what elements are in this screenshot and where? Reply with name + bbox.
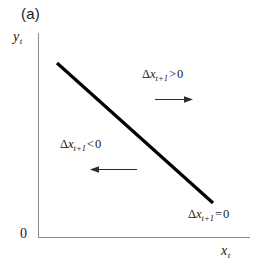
- delta-symbol-above: Δ: [142, 67, 150, 81]
- subscript-below: t+1: [74, 143, 86, 153]
- delta-symbol-online: Δ: [188, 207, 196, 221]
- y-axis-variable: y: [13, 29, 19, 44]
- isocline-line: [0, 0, 265, 268]
- annotation-below-line: Δxt+1<0: [60, 138, 101, 151]
- subscript-above: t+1: [156, 73, 168, 83]
- x-axis-subscript: t: [228, 250, 231, 260]
- isocline-segment: [57, 63, 213, 203]
- arrow-left-shaft: [96, 169, 137, 170]
- arrow-right-icon: [155, 95, 193, 104]
- value-below: 0: [95, 137, 101, 151]
- x-axis-label: xt: [221, 243, 230, 259]
- x-axis-variable: x: [221, 243, 227, 258]
- x-axis-line: [38, 237, 250, 238]
- variable-above: x: [150, 67, 156, 81]
- operator-online: =: [214, 207, 223, 221]
- arrow-left-icon: [90, 165, 137, 174]
- phase-diagram-figure: (a) yt xt 0 Δxt+1>0 Δxt+1<0 Δxt+1=0: [0, 0, 265, 268]
- operator-below: <: [86, 137, 95, 151]
- y-axis-line: [38, 33, 39, 238]
- y-axis-label: yt: [13, 29, 22, 45]
- arrow-right-head: [184, 95, 193, 104]
- y-axis-subscript: t: [20, 36, 23, 46]
- variable-online: x: [196, 207, 202, 221]
- origin-label: 0: [20, 227, 27, 241]
- value-above: 0: [177, 67, 183, 81]
- variable-below: x: [68, 137, 74, 151]
- delta-symbol-below: Δ: [60, 137, 68, 151]
- subscript-online: t+1: [202, 213, 214, 223]
- panel-label: (a): [21, 5, 40, 22]
- annotation-on-line: Δxt+1=0: [188, 208, 229, 221]
- value-online: 0: [223, 207, 229, 221]
- annotation-above-line: Δxt+1>0: [142, 68, 183, 81]
- operator-above: >: [168, 67, 177, 81]
- arrow-left-head: [90, 165, 99, 174]
